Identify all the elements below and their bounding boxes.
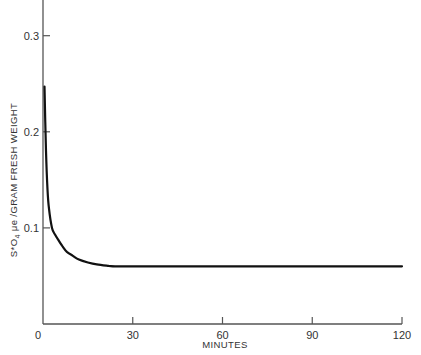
- x-tick-label: 90: [306, 329, 318, 341]
- y-tick-label: 0.3: [24, 30, 39, 42]
- axis-ticks: 03060901200.10.20.3: [24, 30, 411, 341]
- y-tick-label: 0.2: [24, 126, 39, 138]
- y-tick-label: 0.1: [24, 222, 39, 234]
- line-chart: 03060901200.10.20.3 MINUTES S*O4 μe /GRA…: [0, 0, 421, 355]
- x-tick-label: 120: [393, 329, 411, 341]
- y-axis-title: S*O4 μe /GRAM FRESH WEIGHT: [8, 103, 21, 257]
- data-line: [45, 87, 403, 267]
- axes: [43, 0, 402, 324]
- x-tick-label: 0: [35, 329, 41, 341]
- x-axis-title: MINUTES: [202, 339, 248, 350]
- x-tick-label: 30: [127, 329, 139, 341]
